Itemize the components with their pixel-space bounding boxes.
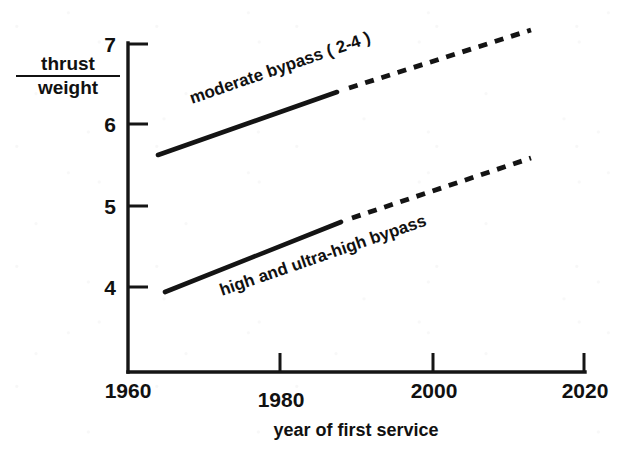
x-tick-label-1980: 1980	[258, 388, 305, 411]
y-tick-label-6: 6	[104, 113, 116, 136]
x-tick-group	[280, 353, 584, 372]
x-tick-label-2020: 2020	[562, 379, 609, 402]
y-tick-label-group: 7 6 5 4	[104, 33, 116, 299]
series-label-moderate-bypass: moderate bypass ( 2-4 )	[187, 28, 373, 108]
x-tick-label-2000: 2000	[411, 379, 458, 402]
series-label-high-bypass: high and ultra-high bypass	[217, 211, 429, 300]
y-tick-label-5: 5	[104, 195, 116, 218]
x-tick-label-group: 1960 1980 2000 2020	[105, 379, 609, 411]
x-tick-label-1960: 1960	[105, 379, 152, 402]
x-axis-title: year of first service	[273, 420, 438, 440]
series-high-bypass-dashed	[352, 158, 531, 218]
chart-figure: thrust weight 7 6 5 4	[0, 0, 634, 458]
chart-canvas: 7 6 5 4 1960 1980 2000 2020 year of firs…	[0, 0, 634, 458]
series-moderate-bypass-dashed	[349, 30, 531, 88]
series-high-bypass	[165, 158, 531, 292]
series-moderate-bypass-solid	[158, 92, 337, 155]
y-tick-label-4: 4	[104, 276, 116, 299]
y-tick-group	[128, 44, 148, 287]
y-tick-label-7: 7	[104, 33, 116, 56]
